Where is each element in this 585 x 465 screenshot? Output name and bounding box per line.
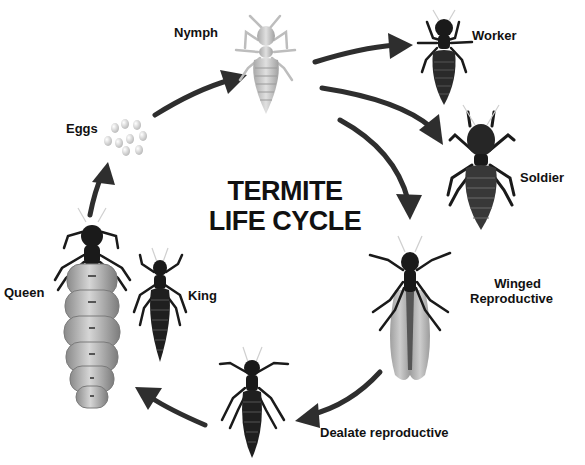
worker-icon (418, 10, 472, 105)
label-winged-line2: Reproductive (470, 291, 553, 306)
label-winged-line1: Winged (470, 276, 553, 291)
diagram-title: TERMITE LIFE CYCLE (205, 176, 365, 236)
arrowhead-icon (388, 33, 413, 59)
arrow-eggs-to-nymph (155, 80, 230, 115)
queen-icon (55, 208, 130, 408)
arrowhead-icon (135, 387, 162, 410)
arrow-nymph-to-worker (315, 45, 395, 62)
title-line-2: LIFE CYCLE (205, 206, 365, 236)
termite-life-cycle-diagram: TERMITE LIFE CYCLE Nymph Worker Soldier … (0, 0, 585, 465)
label-dealate-reproductive: Dealate reproductive (320, 425, 449, 440)
label-king: King (188, 288, 217, 303)
arrowhead-icon (295, 403, 320, 428)
winged-reproductive-icon (370, 236, 450, 380)
label-nymph: Nymph (174, 25, 218, 40)
soldier-icon (448, 105, 514, 230)
label-winged-reproductive: Winged Reproductive (470, 276, 553, 306)
nymph-icon (236, 16, 295, 114)
label-soldier: Soldier (520, 170, 564, 185)
label-queen: Queen (4, 285, 44, 300)
arrow-dealate-to-queen (150, 397, 205, 425)
title-line-1: TERMITE (205, 176, 365, 206)
arrowhead-icon (92, 162, 115, 185)
arrowhead-icon (396, 194, 422, 220)
dealate-reproductive-icon (220, 347, 288, 458)
king-icon (134, 248, 186, 362)
arrow-winged-to-dealate (310, 372, 380, 415)
label-eggs: Eggs (66, 121, 98, 136)
eggs-icon (104, 119, 147, 156)
label-worker: Worker (472, 28, 517, 43)
